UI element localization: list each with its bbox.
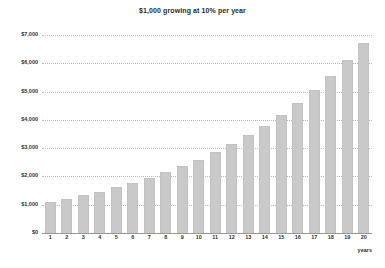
y-axis-tick-label: $3,000 <box>2 145 38 151</box>
plot-area <box>42 35 372 233</box>
bar <box>78 195 89 233</box>
bar <box>358 43 369 233</box>
y-axis-tick-label: $4,000 <box>2 117 38 123</box>
x-axis-tick-label: 3 <box>75 235 92 241</box>
y-axis-tick-label: $5,000 <box>2 89 38 95</box>
x-axis-tick-label: 12 <box>224 235 241 241</box>
y-axis-tick-label: $7,000 <box>2 32 38 38</box>
x-axis-tick-label: 7 <box>141 235 158 241</box>
y-axis-tick-label: $2,000 <box>2 173 38 179</box>
x-axis-tick-label: 5 <box>108 235 125 241</box>
x-axis-tick-label: 16 <box>290 235 307 241</box>
bar <box>210 152 221 233</box>
x-axis-caption: years <box>42 247 373 253</box>
bar <box>342 60 353 233</box>
y-axis-tick-label: $0 <box>2 230 38 236</box>
bar <box>276 115 287 233</box>
axis-baseline <box>42 233 372 234</box>
x-axis-tick-label: 11 <box>207 235 224 241</box>
bar <box>177 166 188 233</box>
bar <box>160 172 171 233</box>
x-axis-tick-label: 18 <box>323 235 340 241</box>
bars-layer <box>42 35 372 233</box>
bar <box>193 160 204 233</box>
bar <box>226 144 237 233</box>
bar <box>309 90 320 233</box>
y-axis-tick-label: $6,000 <box>2 60 38 66</box>
bar <box>144 178 155 233</box>
bar <box>94 192 105 233</box>
bar <box>243 135 254 233</box>
bar <box>45 202 56 233</box>
bar <box>127 183 138 233</box>
x-axis-tick-label: 8 <box>158 235 175 241</box>
x-axis-tick-label: 9 <box>174 235 191 241</box>
x-axis-tick-label: 20 <box>356 235 373 241</box>
x-axis-tick-label: 13 <box>240 235 257 241</box>
x-axis-tick-label: 15 <box>273 235 290 241</box>
x-axis-tick-label: 2 <box>59 235 76 241</box>
bar <box>292 103 303 233</box>
x-axis-tick-label: 6 <box>125 235 142 241</box>
x-axis-tick-label: 1 <box>42 235 59 241</box>
bar <box>325 76 336 233</box>
y-axis-tick-label: $1,000 <box>2 202 38 208</box>
x-axis-tick-label: 14 <box>257 235 274 241</box>
bar <box>259 126 270 233</box>
bar <box>111 187 122 233</box>
chart-title: $1,000 growing at 10% per year <box>0 7 385 14</box>
bar <box>61 199 72 233</box>
x-axis-tick-label: 4 <box>92 235 109 241</box>
x-axis-tick-label: 19 <box>339 235 356 241</box>
x-axis-tick-label: 17 <box>306 235 323 241</box>
x-axis-tick-label: 10 <box>191 235 208 241</box>
bar-chart: $1,000 growing at 10% per year $0$1,000$… <box>0 0 385 268</box>
